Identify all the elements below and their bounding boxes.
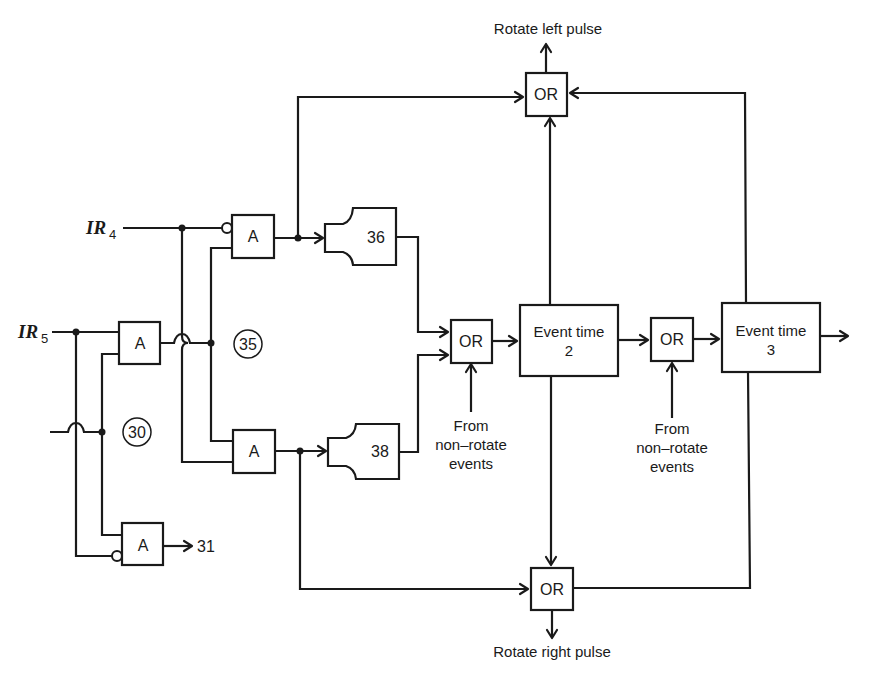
svg-text:non–rotate: non–rotate <box>636 439 708 456</box>
label-31: 31 <box>197 538 215 555</box>
svg-text:A: A <box>135 335 146 352</box>
node-label-35: 35 <box>234 330 262 358</box>
wire-36-to-ormid <box>396 237 447 332</box>
wire-ir5-branch <box>76 332 112 556</box>
svg-text:Event time: Event time <box>534 323 605 340</box>
svg-text:35: 35 <box>239 336 257 353</box>
svg-text:OR: OR <box>660 331 684 348</box>
svg-text:events: events <box>650 458 694 475</box>
negation-bubble-icon <box>112 551 122 561</box>
svg-text:OR: OR <box>459 333 483 350</box>
and-gate-a3: A <box>233 430 275 473</box>
svg-text:30: 30 <box>128 424 146 441</box>
wire-et3-to-orbottom <box>573 372 750 588</box>
negation-bubble-icon <box>222 223 232 233</box>
svg-text:A: A <box>248 228 259 245</box>
annotation-from-nonrotate-2: From non–rotate events <box>636 420 708 475</box>
junction-a3-out <box>297 448 304 455</box>
svg-text:OR: OR <box>534 86 558 103</box>
logic-diagram: IR4 IR5 A A A A 31 35 30 36 38 OR <box>0 0 870 677</box>
wire-node35 <box>211 248 233 441</box>
svg-text:From: From <box>454 417 489 434</box>
wire-a1-to-ortop <box>298 97 522 238</box>
svg-text:2: 2 <box>565 342 573 359</box>
or-gate-right: OR <box>651 318 693 361</box>
or-gate-mid: OR <box>451 320 492 363</box>
svg-text:events: events <box>449 455 493 472</box>
module-38: 38 <box>328 424 399 479</box>
wire-ir4-branch <box>182 228 233 462</box>
node-label-30: 30 <box>123 418 151 446</box>
svg-text:38: 38 <box>371 443 389 460</box>
junction-a1-out <box>295 235 302 242</box>
or-gate-bottom: OR <box>531 568 573 610</box>
label-ir5: IR5 <box>17 321 48 346</box>
svg-text:From: From <box>655 420 690 437</box>
event-time-2: Event time 2 <box>520 305 618 376</box>
or-gate-top: OR <box>526 73 567 116</box>
svg-text:36: 36 <box>367 229 385 246</box>
svg-text:3: 3 <box>767 341 775 358</box>
junction-35 <box>208 340 215 347</box>
event-time-3: Event time 3 <box>722 303 820 372</box>
svg-text:A: A <box>138 537 149 554</box>
junction-30 <box>99 429 106 436</box>
annotation-from-nonrotate-1: From non–rotate events <box>435 417 507 472</box>
label-rotate-right-pulse: Rotate right pulse <box>493 643 611 660</box>
label-ir4: IR4 <box>85 217 116 242</box>
and-gate-a1: A <box>222 215 274 258</box>
junction-ir4 <box>179 225 186 232</box>
svg-text:non–rotate: non–rotate <box>435 436 507 453</box>
wire-et3-to-ortop <box>571 93 746 303</box>
junction-ir5 <box>73 329 80 336</box>
and-gate-a4: A <box>112 523 163 565</box>
and-gate-a2: A <box>119 322 160 364</box>
module-36: 36 <box>325 208 396 265</box>
svg-text:OR: OR <box>540 581 564 598</box>
svg-text:Event time: Event time <box>736 322 807 339</box>
label-rotate-left-pulse: Rotate left pulse <box>494 20 602 37</box>
svg-text:A: A <box>249 443 260 460</box>
wire-30-branch <box>102 354 122 535</box>
